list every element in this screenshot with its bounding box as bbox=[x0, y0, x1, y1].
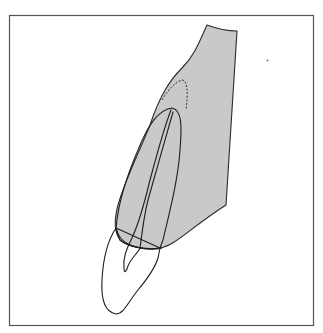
tooth-diagram bbox=[0, 0, 323, 333]
speck-mark bbox=[267, 60, 269, 62]
gingiva-tissue bbox=[115, 25, 237, 249]
